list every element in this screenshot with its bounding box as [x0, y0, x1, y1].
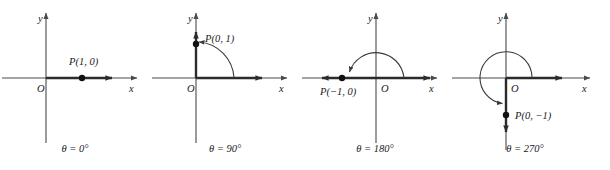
origin-label: O	[187, 83, 195, 94]
point-marker	[193, 41, 199, 47]
y-axis-label: y	[37, 13, 43, 24]
panel-caption: θ = 180°	[300, 143, 450, 154]
origin-label: O	[37, 83, 45, 94]
x-axis-label: x	[428, 83, 434, 94]
panel-theta-270: P(0, −1) O x y θ = 270°	[450, 0, 600, 170]
panel-caption: θ = 0°	[0, 143, 150, 154]
x-axis-label: x	[581, 83, 587, 94]
y-axis-label: y	[497, 13, 503, 24]
y-axis-label: y	[367, 13, 373, 24]
point-marker	[339, 75, 345, 81]
point-label: P(1, 0)	[68, 56, 99, 68]
panel-theta-90: P(0, 1) O x y θ = 90°	[150, 0, 300, 170]
rotation-arc	[199, 42, 234, 78]
rotation-arc	[350, 53, 405, 78]
panel-theta-180: P(−1, 0) O x y θ = 180°	[300, 0, 450, 170]
panel-caption: θ = 90°	[150, 143, 300, 154]
panel-theta-0: P(1, 0) O x y θ = 0°	[0, 0, 150, 170]
y-axis-label: y	[187, 13, 193, 24]
origin-label: O	[381, 83, 389, 94]
x-axis-label: x	[278, 83, 284, 94]
quadrantal-angles-figure: P(1, 0) O x y θ = 0°	[0, 0, 610, 170]
x-axis-label: x	[128, 83, 134, 94]
point-marker	[503, 112, 509, 118]
point-label: P(0, −1)	[514, 110, 552, 122]
point-label: P(−1, 0)	[319, 86, 357, 98]
panel-caption: θ = 270°	[450, 143, 600, 154]
point-marker	[79, 75, 85, 81]
origin-label: O	[511, 83, 519, 94]
point-label: P(0, 1)	[204, 33, 235, 45]
